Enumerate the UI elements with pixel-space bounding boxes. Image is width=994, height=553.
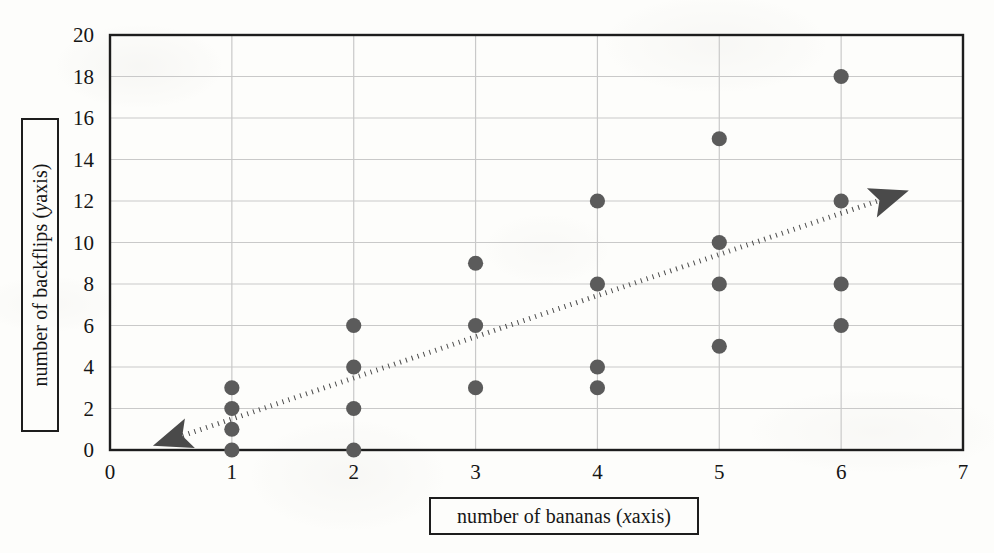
x-axis-title-suffix: axis) <box>632 506 671 526</box>
data-point <box>590 276 605 291</box>
data-point <box>712 235 727 250</box>
y-tick-label: 0 <box>54 440 94 461</box>
data-point <box>590 193 605 208</box>
data-point <box>224 380 239 395</box>
x-tick-label: 7 <box>943 462 983 483</box>
y-tick-label: 12 <box>54 191 94 212</box>
x-axis-title-prefix: number of bananas ( <box>457 506 623 526</box>
y-axis-title-variable: y <box>30 203 50 212</box>
x-tick-label: 1 <box>212 462 252 483</box>
y-tick-label: 10 <box>54 233 94 254</box>
x-tick-label: 3 <box>456 462 496 483</box>
data-point <box>834 69 849 84</box>
y-tick-label: 20 <box>54 25 94 46</box>
data-point <box>224 442 239 457</box>
y-axis-title: number of backflips (y axis) <box>21 118 59 432</box>
x-tick-label: 4 <box>577 462 617 483</box>
y-axis-title-suffix: axis) <box>30 163 50 202</box>
data-point <box>224 401 239 416</box>
y-tick-label: 4 <box>54 357 94 378</box>
data-point <box>834 193 849 208</box>
x-axis-title-variable: x <box>623 506 632 526</box>
data-point <box>712 131 727 146</box>
y-tick-label: 14 <box>54 150 94 171</box>
x-axis-title: number of bananas (x axis) <box>429 497 699 535</box>
y-tick-label: 8 <box>54 274 94 295</box>
data-point <box>590 359 605 374</box>
data-point <box>224 422 239 437</box>
trend-line <box>171 197 890 440</box>
data-point-group <box>224 69 848 458</box>
y-tick-label: 18 <box>54 67 94 88</box>
data-point <box>346 359 361 374</box>
data-point <box>834 318 849 333</box>
data-point <box>468 318 483 333</box>
trend-line-annotation <box>171 197 890 440</box>
y-tick-label: 2 <box>54 399 94 420</box>
x-tick-label: 5 <box>699 462 739 483</box>
data-point <box>346 401 361 416</box>
data-point <box>346 442 361 457</box>
x-tick-label: 6 <box>821 462 861 483</box>
y-axis-title-prefix: number of backflips ( <box>30 212 50 387</box>
scatter-plot-figure: 01234567 02468101214161820 number of ban… <box>0 0 994 553</box>
y-tick-label: 6 <box>54 316 94 337</box>
data-point <box>468 380 483 395</box>
data-point <box>346 318 361 333</box>
x-tick-label: 0 <box>90 462 130 483</box>
data-point <box>712 276 727 291</box>
x-tick-label: 2 <box>334 462 374 483</box>
data-point <box>834 276 849 291</box>
data-point <box>590 380 605 395</box>
y-tick-label: 16 <box>54 108 94 129</box>
data-point <box>712 339 727 354</box>
data-point <box>468 256 483 271</box>
